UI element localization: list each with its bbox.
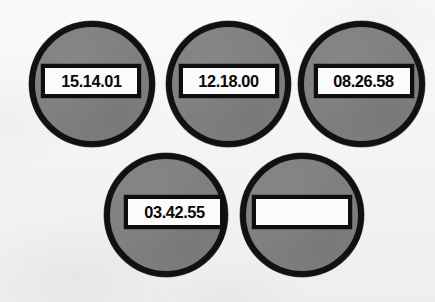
marker-scene: 15.14.01 12.18.00 08.26.58 03.42.55 [0,0,435,302]
code-plate[interactable]: 03.42.55 [124,195,224,229]
code-plate[interactable]: 08.26.58 [314,64,414,98]
marker-disc-top-left[interactable]: 15.14.01 [29,21,155,147]
code-plate[interactable]: 12.18.00 [179,64,279,98]
code-label: 03.42.55 [144,204,204,221]
marker-disc-bottom-right[interactable] [240,153,364,277]
code-plate-blank[interactable] [252,195,352,229]
marker-disc-top-center[interactable]: 12.18.00 [166,21,291,147]
marker-disc-bottom-left[interactable]: 03.42.55 [104,153,228,277]
code-label: 12.18.00 [198,73,258,90]
marker-disc-top-right[interactable]: 08.26.58 [298,21,425,147]
code-plate[interactable]: 15.14.01 [41,64,141,98]
code-label: 08.26.58 [333,73,393,90]
code-label: 15.14.01 [61,73,121,90]
